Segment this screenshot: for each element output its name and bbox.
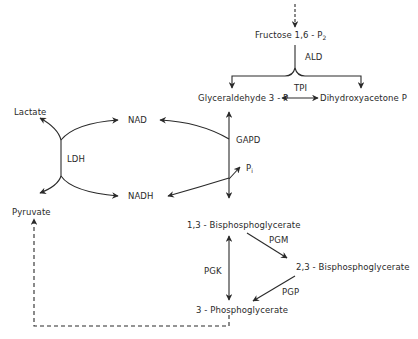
- nad-label: NAD: [128, 116, 147, 125]
- tpi-enzyme-label: TPI: [294, 84, 307, 93]
- bpg13-label: 1,3 - Bisphosphoglycerate: [187, 221, 300, 230]
- ldh-enzyme-label: LDH: [67, 155, 85, 164]
- fructose-label: Fructose 1,6 - P2: [255, 31, 326, 41]
- pgp-enzyme-label: PGP: [282, 288, 299, 297]
- pg3-label: 3 - Phosphoglycerate: [196, 306, 288, 315]
- ald-to-gap-arrow: [232, 68, 295, 88]
- ldh-to-nad-arc: [61, 120, 118, 140]
- gapd-enzyme-label: GAPD: [236, 136, 260, 145]
- pyruvate-label: Pyruvate: [12, 208, 51, 217]
- pathway-arrows: [0, 0, 418, 339]
- nadh-arc: [168, 178, 229, 196]
- ldh-to-pyruvate-arc: [40, 176, 61, 193]
- gap-label: Glyceraldehyde 3 - P: [198, 94, 288, 103]
- bpg23-label: 2,3 - Bisphosphoglycerate: [296, 263, 409, 272]
- ldh-to-nadh-arc: [61, 176, 118, 196]
- lactate-label: Lactate: [14, 108, 46, 117]
- pi-label: Pi: [246, 164, 253, 174]
- ldh-to-lactate-arc: [40, 118, 61, 140]
- pgk-enzyme-label: PGK: [204, 267, 222, 276]
- pi-arrow: [229, 167, 240, 179]
- glycolysis-diagram: Fructose 1,6 - P2 ALD TPI Glyceraldehyde…: [0, 0, 418, 339]
- dhap-label: Dihydroxyacetone P: [320, 94, 407, 103]
- nadh-label: NADH: [128, 192, 154, 201]
- ald-enzyme-label: ALD: [305, 53, 322, 62]
- gapd-to-nad-arc: [160, 120, 229, 139]
- pgm-enzyme-label: PGM: [269, 236, 288, 245]
